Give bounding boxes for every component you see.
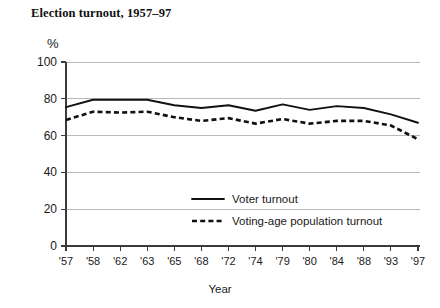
x-tick-label-2: '62 <box>113 255 127 267</box>
y-tick-label-80: 80 <box>44 92 58 106</box>
x-tick-label-9: '80 <box>303 255 317 267</box>
series-line-0 <box>66 100 418 123</box>
x-tick-label-5: '68 <box>194 255 208 267</box>
y-tick-label-0: 0 <box>50 239 57 253</box>
chart-legend: Voter turnoutVoting-age population turno… <box>192 193 383 227</box>
y-tick-label-40: 40 <box>44 165 58 179</box>
y-tick-label-20: 20 <box>44 202 58 216</box>
x-tick-label-6: '72 <box>221 255 235 267</box>
x-tick-label-1: '58 <box>86 255 100 267</box>
x-axis-title: Year <box>0 283 440 295</box>
legend-label-0: Voter turnout <box>232 193 299 205</box>
legend-label-1: Voting-age population turnout <box>232 215 383 227</box>
x-tick-label-0: '57 <box>59 255 73 267</box>
x-tick-label-12: '93 <box>384 255 398 267</box>
y-axis-ticks-group: 020406080100 <box>37 55 66 253</box>
y-tick-label-100: 100 <box>37 55 57 69</box>
election-turnout-chart: Election turnout, 1957–97 % 020406080100… <box>0 0 440 308</box>
x-tick-label-8: '79 <box>275 255 289 267</box>
x-tick-label-13: '97 <box>411 255 425 267</box>
x-axis-ticks-group: '57'58'62'63'65'68'72'74'79'80'84'88'93'… <box>59 246 425 267</box>
x-tick-label-3: '63 <box>140 255 154 267</box>
x-tick-label-7: '74 <box>248 255 262 267</box>
x-tick-label-4: '65 <box>167 255 181 267</box>
x-tick-label-11: '88 <box>357 255 371 267</box>
x-tick-label-10: '84 <box>330 255 344 267</box>
chart-plot-area: 020406080100 '57'58'62'63'65'68'72'74'79… <box>0 0 440 308</box>
data-series-group <box>66 100 418 140</box>
y-tick-label-60: 60 <box>44 129 58 143</box>
